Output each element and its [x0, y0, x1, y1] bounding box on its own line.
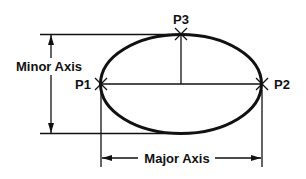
label-p1: P1 — [75, 77, 91, 92]
label-major-axis: Major Axis — [144, 151, 209, 166]
label-minor-axis: Minor Axis — [16, 59, 82, 74]
label-p3: P3 — [173, 12, 189, 27]
label-p2: P2 — [274, 77, 290, 92]
ellipse-diagram: P3 P1 P2 Minor Axis Major Axis — [0, 0, 306, 179]
